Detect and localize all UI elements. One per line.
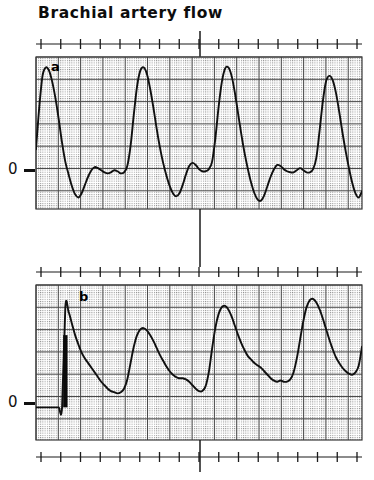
ruler-top (36, 39, 362, 49)
panel-b (36, 285, 362, 440)
figure-brachial-artery-flow: Brachial artery flow 0 0 a b (0, 0, 374, 480)
panel-letter-b: b (79, 290, 88, 303)
panel-a (36, 57, 362, 209)
ruler-bottom (36, 452, 362, 462)
ruler-middle (36, 267, 362, 277)
panel-b-minor-grid (36, 285, 362, 440)
panel-letter-a: a (51, 60, 60, 73)
